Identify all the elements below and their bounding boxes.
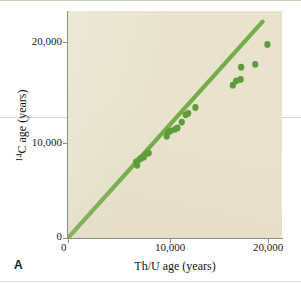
data-point <box>264 41 270 48</box>
data-point <box>179 119 185 126</box>
x-tick-label-20000: 20,000 <box>239 241 297 253</box>
plot-area <box>68 11 282 238</box>
data-point <box>238 76 244 83</box>
reference-line-path <box>68 22 263 238</box>
data-point <box>192 104 198 111</box>
y-axis-title: 14C age (years) <box>15 41 30 211</box>
y-axis-title-rest: C age (years) <box>15 90 29 154</box>
data-point <box>174 124 180 131</box>
x-axis-title: Th/U age (years) <box>88 259 262 274</box>
y-axis-title-superscript: 14 <box>15 153 24 161</box>
x-axis-line <box>67 238 283 239</box>
scan-artifact-top <box>0 0 301 1</box>
reference-line <box>68 22 263 238</box>
y-tick-label-10000: 10,000 <box>32 136 62 148</box>
data-point <box>252 61 258 68</box>
y-tick-20000 <box>63 42 68 43</box>
y-tick-label-20000: 20,000 <box>32 35 62 47</box>
data-point <box>146 150 152 157</box>
x-tick-0 <box>68 238 69 243</box>
x-tick-label-0: 0 <box>61 241 67 253</box>
chart-canvas <box>68 11 282 238</box>
y-tick-10000 <box>63 143 68 144</box>
figure-panel-a: 20,000 10,000 0 0 10,000 20,000 Th/U age… <box>0 0 301 283</box>
x-tick-label-10000: 10,000 <box>141 241 199 253</box>
data-point <box>238 64 244 71</box>
panel-label: A <box>14 258 23 272</box>
scan-artifact-bottom <box>0 281 301 282</box>
data-point <box>185 110 191 117</box>
data-point <box>134 162 140 169</box>
y-axis-line <box>67 11 68 239</box>
data-points <box>133 41 271 169</box>
